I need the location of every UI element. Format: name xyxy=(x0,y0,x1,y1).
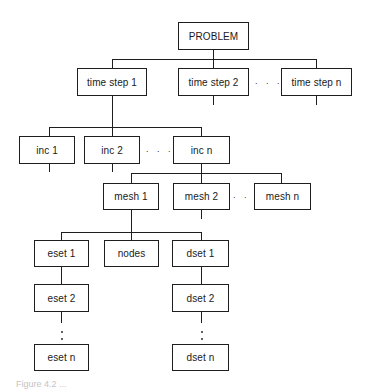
figure-caption: Figure 4.2 ... xyxy=(16,379,67,389)
connector xyxy=(213,59,214,68)
node-nodes: nodes xyxy=(104,240,159,267)
vertical-ellipsis xyxy=(201,338,203,340)
connector-stub xyxy=(316,96,317,105)
node-time-step-2: time step 2 xyxy=(178,68,249,96)
node-eset-2: eset 2 xyxy=(34,284,89,312)
node-inc-1: inc 1 xyxy=(19,136,75,164)
connector xyxy=(201,312,202,323)
connector xyxy=(316,59,317,68)
node-time-step-n: time step n xyxy=(281,68,352,96)
ellipsis: . . . xyxy=(255,76,283,86)
connector xyxy=(61,267,62,284)
ellipsis: . . . xyxy=(146,144,174,154)
node-eset-1: eset 1 xyxy=(34,240,89,267)
node-problem: PROBLEM xyxy=(178,22,249,50)
connector xyxy=(281,173,282,183)
connector-stub xyxy=(201,210,202,219)
connector xyxy=(131,232,132,240)
node-dset-n: dset n xyxy=(172,344,229,371)
connector xyxy=(112,127,113,136)
node-inc-2: inc 2 xyxy=(84,136,140,164)
node-mesh-2: mesh 2 xyxy=(173,183,230,210)
node-eset-n: eset n xyxy=(34,344,89,371)
node-inc-n: inc n xyxy=(173,136,230,164)
connector xyxy=(61,312,62,323)
connector xyxy=(201,127,202,136)
connector-stub xyxy=(112,164,113,172)
vertical-ellipsis xyxy=(61,331,63,333)
connector xyxy=(131,210,132,233)
connector xyxy=(131,173,132,183)
connector xyxy=(131,173,282,174)
connector-stub xyxy=(49,164,50,172)
connector xyxy=(49,127,202,128)
node-mesh-1: mesh 1 xyxy=(103,183,159,210)
node-mesh-n: mesh n xyxy=(254,183,311,210)
node-time-step-1: time step 1 xyxy=(77,68,147,96)
connector xyxy=(49,127,50,136)
vertical-ellipsis xyxy=(201,331,203,333)
vertical-ellipsis xyxy=(61,338,63,340)
connector xyxy=(61,232,62,240)
connector xyxy=(201,232,202,240)
connector xyxy=(112,96,113,127)
connector xyxy=(112,59,113,68)
connector xyxy=(112,59,317,60)
node-dset-2: dset 2 xyxy=(172,284,229,312)
connector-stub xyxy=(213,96,214,105)
connector xyxy=(201,173,202,183)
node-dset-1: dset 1 xyxy=(172,240,229,267)
connector xyxy=(201,267,202,284)
